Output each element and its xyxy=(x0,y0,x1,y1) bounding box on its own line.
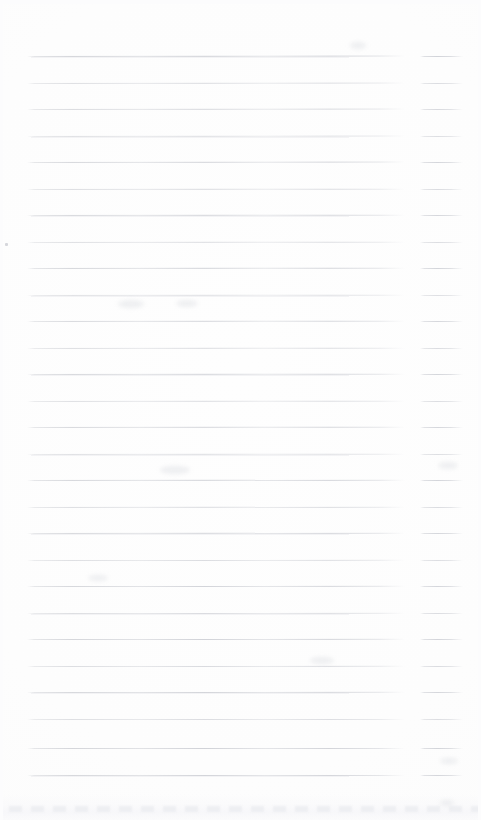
writing-area[interactable] xyxy=(27,40,463,785)
page-edge-left xyxy=(0,0,3,820)
scanned-page xyxy=(0,0,481,820)
page-edge-top xyxy=(0,0,481,4)
